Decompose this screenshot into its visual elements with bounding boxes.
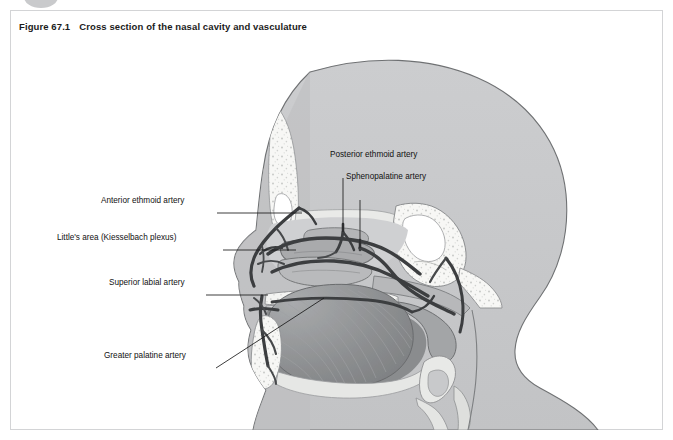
page-marker-bubble — [24, 0, 58, 8]
label-greater-palatine-artery: Greater palatine artery — [104, 351, 186, 360]
anatomy-illustration — [10, 10, 663, 430]
label-superior-labial-artery: Superior labial artery — [109, 278, 185, 287]
figure-page: Figure 67.1Cross section of the nasal ca… — [0, 0, 673, 440]
label-anterior-ethmoid-artery: Anterior ethmoid artery — [101, 196, 184, 205]
label-sphenopalatine-artery: Sphenopalatine artery — [346, 172, 426, 181]
label-posterior-ethmoid-artery: Posterior ethmoid artery — [330, 150, 417, 159]
label-littles-area: Little's area (Kiesselbach plexus) — [57, 233, 176, 242]
